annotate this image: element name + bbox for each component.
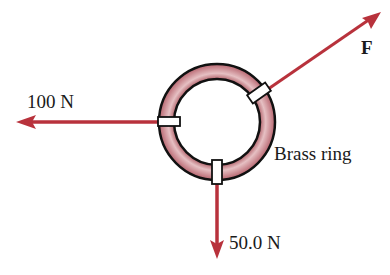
force-arrow-100n bbox=[16, 115, 165, 129]
label-f: F bbox=[361, 37, 373, 58]
clip-bottom bbox=[212, 160, 222, 184]
label-50n: 50.0 N bbox=[229, 232, 281, 253]
force-arrow-50n bbox=[210, 180, 224, 259]
free-body-diagram: 100 N F 50.0 N Brass ring bbox=[0, 0, 390, 275]
label-brass-ring: Brass ring bbox=[274, 143, 352, 164]
label-100n: 100 N bbox=[27, 91, 74, 112]
clip-left bbox=[158, 117, 180, 126]
